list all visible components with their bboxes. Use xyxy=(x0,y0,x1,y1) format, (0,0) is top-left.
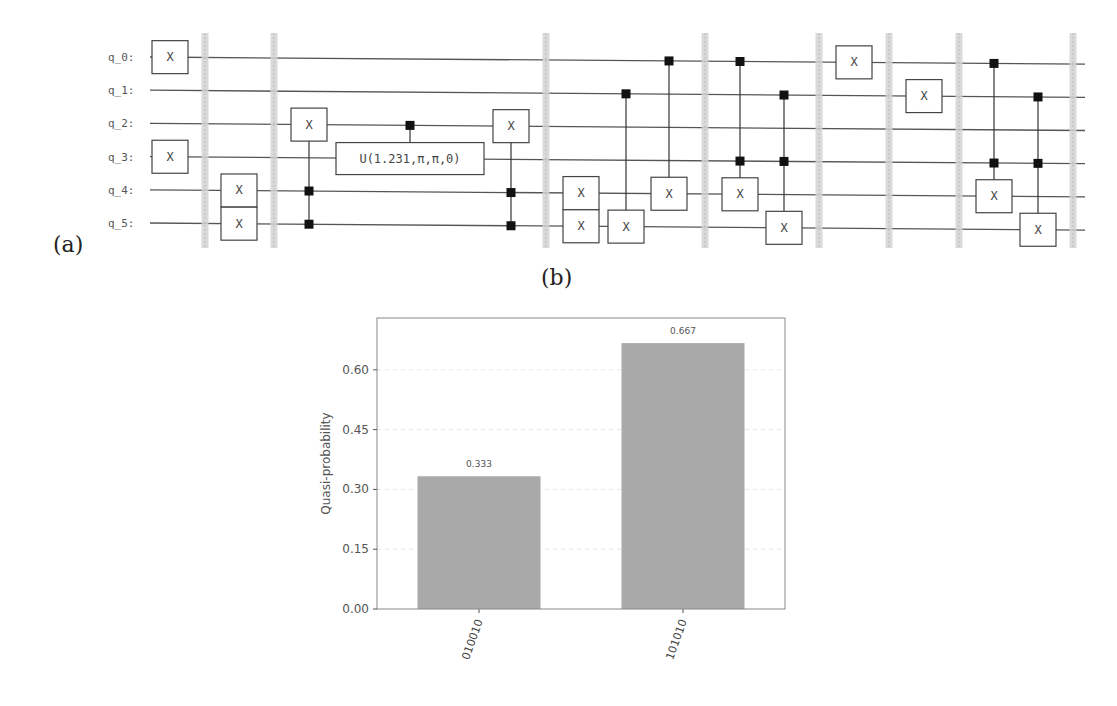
gate-label: X xyxy=(305,118,313,132)
control-dot xyxy=(990,159,999,168)
quasi-probability-bar-chart: 0.3330100100.6671010100.000.150.300.450.… xyxy=(0,280,1117,706)
y-axis-label: Quasi-probability xyxy=(319,412,333,514)
x-tick-label: 101010 xyxy=(663,618,690,662)
y-tick-label: 0.00 xyxy=(342,602,369,616)
x-tick-label: 010010 xyxy=(459,618,486,662)
gate-x: X xyxy=(1020,213,1056,246)
qubit-wire xyxy=(150,157,1085,164)
control-dot xyxy=(507,221,516,230)
qubit-label: q_2: xyxy=(108,117,135,130)
control-dot xyxy=(507,188,516,197)
qubit-wire xyxy=(150,57,1085,64)
control-dot xyxy=(736,57,745,66)
control-dot xyxy=(736,157,745,166)
qubit-label: q_4: xyxy=(108,184,135,197)
gate-label: U(1.231,π,π,0) xyxy=(359,152,460,166)
qubit-label: q_3: xyxy=(108,151,135,164)
qubit-label: q_5: xyxy=(108,217,135,230)
gate-x: X xyxy=(722,178,758,211)
gate-label: X xyxy=(235,183,243,197)
gate-label: X xyxy=(577,219,585,233)
gate-label: X xyxy=(166,50,174,64)
control-dot xyxy=(665,56,674,65)
control-dot xyxy=(780,91,789,100)
bar xyxy=(418,476,541,609)
y-tick-label: 0.45 xyxy=(342,423,369,437)
qubit-label: q_0: xyxy=(108,51,135,64)
control-dot xyxy=(1034,159,1043,168)
y-tick-label: 0.60 xyxy=(342,363,369,377)
control-dot xyxy=(406,121,415,130)
gate-x: X xyxy=(221,207,257,240)
gate-label: X xyxy=(665,187,673,201)
qubit-wire xyxy=(150,90,1085,97)
gate-x: X xyxy=(152,140,188,173)
gate-x: X xyxy=(291,108,327,141)
gate-x: X xyxy=(563,177,599,210)
gate-label: X xyxy=(577,186,585,200)
gate-label: X xyxy=(780,221,788,235)
gate-label: X xyxy=(622,220,630,234)
gate-label: X xyxy=(920,89,928,103)
gate-x: X xyxy=(836,46,872,79)
bar-value-label: 0.333 xyxy=(466,459,492,469)
gate-label: X xyxy=(736,187,744,201)
control-dot xyxy=(1034,92,1043,101)
gate-x: X xyxy=(493,110,529,143)
gate-x: X xyxy=(766,211,802,244)
gate-x: X xyxy=(221,174,257,207)
quantum-circuit-diagram: q_0:q_1:q_2:q_3:q_4:q_5:XXXXXU(1.231,π,π… xyxy=(0,0,1117,270)
gate-x: X xyxy=(152,41,188,74)
bar-value-label: 0.667 xyxy=(670,326,696,336)
gate-x: X xyxy=(906,80,942,113)
gate-label: X xyxy=(166,150,174,164)
gate-label: X xyxy=(235,217,243,231)
y-tick-label: 0.30 xyxy=(342,482,369,496)
gate-label: X xyxy=(507,119,515,133)
control-dot xyxy=(305,187,314,196)
qubit-wire xyxy=(150,123,1085,130)
gate-label: X xyxy=(1034,223,1042,237)
control-dot xyxy=(305,220,314,229)
gate-x: X xyxy=(608,210,644,243)
bar xyxy=(622,343,745,609)
gate-label: X xyxy=(990,189,998,203)
gate-x: X xyxy=(651,177,687,210)
control-dot xyxy=(780,157,789,166)
qubit-label: q_1: xyxy=(108,84,135,97)
gate-x: X xyxy=(976,180,1012,213)
gate-x: X xyxy=(563,210,599,243)
gate-controlled-u: U(1.231,π,π,0) xyxy=(336,143,484,175)
control-dot xyxy=(622,89,631,98)
qubit-wire xyxy=(150,190,1085,197)
control-dot xyxy=(990,59,999,68)
y-tick-label: 0.15 xyxy=(342,542,369,556)
gate-label: X xyxy=(850,55,858,69)
